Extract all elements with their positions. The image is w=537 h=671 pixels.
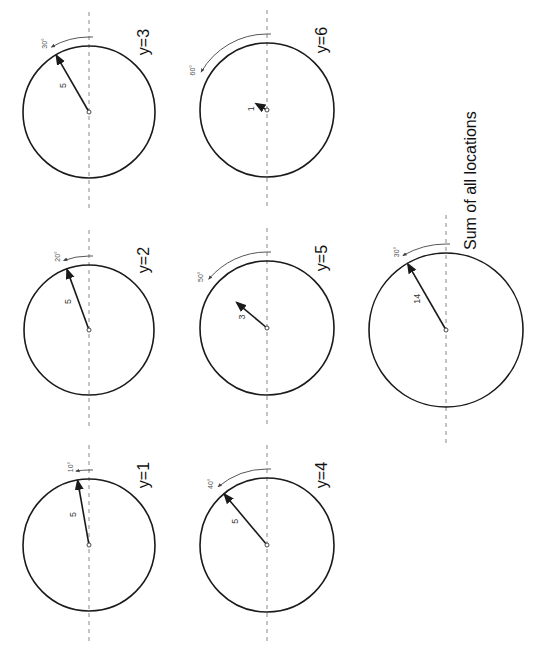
panel-label: y=2	[135, 247, 152, 273]
angle-label: 50°	[197, 271, 204, 282]
origin-dot	[265, 108, 269, 112]
angle-label: 40°	[207, 478, 214, 489]
origin-dot	[87, 110, 91, 114]
panel-y5: 350°y=5	[197, 228, 334, 428]
angle-label: 20°	[54, 251, 61, 262]
magnitude-label: 5	[68, 512, 78, 517]
panel-y1: 510°y=1	[23, 445, 155, 645]
origin-dot	[87, 328, 91, 332]
panel-label: y=1	[135, 462, 152, 488]
panel-y2: 520°y=2	[24, 230, 154, 430]
panel-y6: 160°y=6	[189, 10, 334, 210]
phasor-diagram: 510°y=1 520°y=2 530°y=3 540°y=4 350°y=5 …	[0, 0, 537, 671]
panel-label: y=4	[313, 462, 330, 488]
angle-label: 10°	[67, 461, 74, 472]
angle-arc	[209, 252, 271, 279]
angle-label: 60°	[189, 65, 196, 76]
magnitude-label: 5	[230, 519, 240, 524]
angle-label: 30°	[393, 246, 400, 257]
panel-sum: 1430°	[369, 215, 523, 445]
origin-dot	[265, 326, 269, 330]
panel-label: y=3	[135, 29, 152, 55]
origin-dot	[444, 328, 448, 332]
magnitude-label: 1	[246, 106, 256, 111]
origin-dot	[265, 543, 269, 547]
magnitude-label: 5	[63, 299, 73, 304]
panel-label: y=6	[313, 27, 330, 53]
magnitude-label: 5	[58, 83, 68, 88]
vector-arrow	[78, 481, 89, 545]
origin-dot	[87, 543, 91, 547]
angle-label: 30°	[41, 38, 48, 49]
angle-arc	[76, 470, 93, 471]
panel-label: y=5	[313, 245, 330, 271]
panel-y3: 530°y=3	[23, 12, 155, 212]
angle-arc	[201, 34, 271, 72]
magnitude-label: 14	[412, 294, 422, 304]
magnitude-label: 3	[237, 315, 247, 320]
sum-title: Sum of all locations	[462, 111, 479, 250]
panel-y4: 540°y=4	[200, 445, 334, 645]
